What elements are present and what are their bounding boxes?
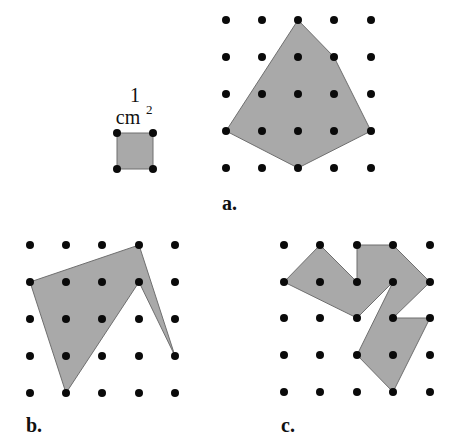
grid-dot <box>258 53 266 61</box>
grid-dot <box>353 388 361 396</box>
grid-dot <box>149 165 157 173</box>
grid-dot <box>426 351 434 359</box>
grid-dot <box>389 351 397 359</box>
panel-label-c: c. <box>281 414 295 436</box>
grid-dot <box>171 352 179 360</box>
grid-dot <box>426 314 434 322</box>
panel-a: a. <box>222 16 375 214</box>
grid-dot <box>389 278 397 286</box>
grid-dot <box>316 278 324 286</box>
grid-dot <box>389 241 397 249</box>
unit-label-cm: cm <box>116 106 141 128</box>
grid-dot <box>316 351 324 359</box>
grid-dot <box>316 314 324 322</box>
grid-dot <box>26 241 34 249</box>
grid-dot <box>280 241 288 249</box>
grid-dot <box>98 315 106 323</box>
grid-dot <box>113 129 121 137</box>
grid-dot <box>113 165 121 173</box>
dot-grid-area-diagram: 1 cm 2 a. b. c. <box>0 0 456 446</box>
grid-dot <box>294 16 302 24</box>
grid-dot <box>135 278 143 286</box>
grid-dot <box>330 127 338 135</box>
grid-dot <box>62 389 70 397</box>
grid-dot <box>426 241 434 249</box>
grid-dot <box>171 315 179 323</box>
grid-dot <box>171 241 179 249</box>
grid-dot <box>222 164 230 172</box>
panel-b: b. <box>26 241 179 436</box>
grid-dot <box>426 278 434 286</box>
grid-dot <box>98 278 106 286</box>
grid-dot <box>222 90 230 98</box>
grid-dot <box>258 164 266 172</box>
grid-dot <box>26 352 34 360</box>
grid-dot <box>98 389 106 397</box>
grid-dot <box>26 389 34 397</box>
grid-dot <box>353 241 361 249</box>
grid-dot <box>135 389 143 397</box>
grid-dot <box>222 127 230 135</box>
grid-dot <box>258 127 266 135</box>
grid-dot <box>98 352 106 360</box>
grid-dot <box>258 16 266 24</box>
grid-dot <box>389 388 397 396</box>
grid-dot <box>316 241 324 249</box>
grid-dot <box>222 16 230 24</box>
grid-dot <box>330 53 338 61</box>
unit-label-number: 1 <box>130 84 140 106</box>
grid-dot <box>62 278 70 286</box>
grid-dot <box>280 351 288 359</box>
grid-dot <box>353 314 361 322</box>
grid-dot <box>294 90 302 98</box>
grid-dot <box>294 53 302 61</box>
grid-dot <box>353 278 361 286</box>
grid-dot <box>389 314 397 322</box>
panel-label-b: b. <box>26 414 42 436</box>
grid-dot <box>426 388 434 396</box>
grid-dot <box>135 241 143 249</box>
unit-label-exponent: 2 <box>146 102 153 117</box>
panel-label-a: a. <box>222 192 237 214</box>
grid-dot <box>353 351 361 359</box>
unit-square <box>117 133 153 169</box>
grid-dot <box>367 127 375 135</box>
grid-dot <box>258 90 266 98</box>
grid-dot <box>294 127 302 135</box>
grid-dot <box>62 241 70 249</box>
grid-dot <box>62 315 70 323</box>
grid-dot <box>367 53 375 61</box>
grid-dot <box>367 90 375 98</box>
grid-dot <box>280 278 288 286</box>
panel-c: c. <box>280 241 434 436</box>
grid-dot <box>367 164 375 172</box>
grid-dot <box>316 388 324 396</box>
grid-dot <box>280 388 288 396</box>
grid-dot <box>26 278 34 286</box>
grid-dot <box>98 241 106 249</box>
grid-dot <box>149 129 157 137</box>
grid-dot <box>135 352 143 360</box>
grid-dot <box>222 53 230 61</box>
grid-dot <box>62 352 70 360</box>
unit-square-group: 1 cm 2 <box>113 84 157 173</box>
grid-dot <box>171 389 179 397</box>
grid-dot <box>330 16 338 24</box>
grid-dot <box>26 315 34 323</box>
grid-dot <box>280 314 288 322</box>
grid-dot <box>294 164 302 172</box>
grid-dot <box>367 16 375 24</box>
grid-dot <box>330 90 338 98</box>
grid-dot <box>330 164 338 172</box>
grid-dot <box>171 278 179 286</box>
grid-dot <box>135 315 143 323</box>
